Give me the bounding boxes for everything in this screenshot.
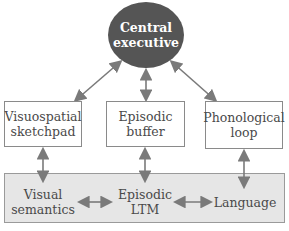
episodic-ltm-label: Episodic LTM: [112, 187, 178, 217]
episodic-ltm-line1: Episodic: [112, 187, 178, 202]
buffer-line2: buffer: [126, 124, 164, 139]
loop-line1: Phonological: [203, 110, 285, 125]
central-executive-node: Central executive: [108, 2, 184, 68]
central-executive-line1: Central: [120, 20, 172, 35]
arrow-executive-loop: [172, 62, 215, 100]
arrow-executive-sketchpad: [76, 62, 120, 100]
central-executive-line2: executive: [113, 35, 179, 50]
visual-semantics-label: Visual semantics: [10, 187, 76, 217]
loop-line2: loop: [230, 125, 257, 140]
sketchpad-line2: sketchpad: [11, 124, 76, 139]
buffer-line1: Episodic: [118, 109, 172, 124]
visual-semantics-line1: Visual: [10, 187, 76, 202]
phonological-loop-node: Phonological loop: [205, 101, 283, 149]
visuospatial-sketchpad-node: Visuospatial sketchpad: [4, 101, 82, 147]
episodic-buffer-node: Episodic buffer: [106, 101, 185, 147]
sketchpad-line1: Visuospatial: [4, 109, 81, 124]
visual-semantics-line2: semantics: [10, 202, 76, 217]
episodic-ltm-line2: LTM: [112, 202, 178, 217]
language-label: Language: [212, 195, 278, 210]
language-line1: Language: [212, 195, 278, 210]
